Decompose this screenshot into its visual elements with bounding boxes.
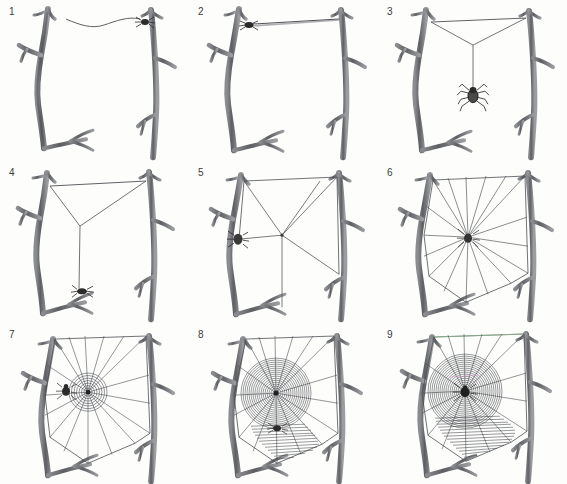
panel-6-drawing [378, 161, 567, 322]
panel-1-drawing [0, 0, 189, 161]
first-radii [239, 177, 339, 307]
panel-5-number: 5 [198, 168, 204, 178]
panel-4-number: 4 [9, 168, 15, 178]
panel-1-number: 1 [9, 7, 15, 17]
left-branch [397, 10, 471, 151]
panel-5: 5 [189, 161, 378, 322]
bridge-thread [50, 181, 146, 186]
right-branch [324, 336, 361, 481]
illustration-sheet: 1 [0, 0, 567, 484]
anchored-dropline [79, 226, 80, 289]
panel-grid: 1 [0, 0, 567, 484]
panel-4-drawing [0, 161, 189, 322]
spider-on-spiral [267, 423, 288, 434]
panel-7-drawing [0, 323, 189, 484]
left-branch [19, 9, 93, 150]
panel-8: 8 [189, 323, 378, 484]
top-frame-highlight [434, 334, 524, 337]
hanging-spider [457, 84, 489, 111]
panel-2: 2 [189, 0, 378, 161]
panel-9-drawing [378, 323, 567, 484]
panel-6: 6 [378, 161, 567, 322]
right-branch [138, 10, 175, 157]
frame-threads [424, 176, 528, 302]
panel-5-drawing [189, 161, 378, 322]
taut-bridge-thread [251, 19, 339, 26]
spider-on-right-branch [135, 17, 155, 28]
y-fork-threads [431, 18, 526, 45]
frame-threads [45, 336, 150, 463]
y-fork-threads [50, 181, 146, 226]
panel-8-number: 8 [198, 330, 204, 340]
right-branch [136, 336, 173, 481]
panel-9: 9 [378, 323, 567, 484]
hub-dark [274, 390, 279, 395]
right-branch [328, 10, 365, 157]
panel-6-number: 6 [387, 168, 393, 178]
right-branch [326, 173, 363, 319]
frame-threads [422, 334, 527, 461]
hub-dark [86, 389, 91, 394]
panel-8-drawing [189, 323, 378, 484]
bridge-thread [431, 18, 526, 22]
panel-2-drawing [189, 0, 378, 161]
panel-1: 1 [0, 0, 189, 161]
left-branch [209, 9, 283, 151]
panel-7: 7 [0, 323, 189, 484]
panel-4: 4 [0, 161, 189, 322]
right-branch [516, 11, 553, 157]
left-branch [400, 175, 474, 314]
panel-3-number: 3 [387, 7, 393, 17]
panel-3-drawing [378, 0, 567, 161]
floating-bridge-thread [66, 18, 140, 27]
panel-9-number: 9 [387, 330, 393, 340]
panel-3: 3 [378, 0, 567, 161]
left-branch [211, 175, 285, 314]
right-branch [513, 334, 550, 481]
panel-7-number: 7 [9, 330, 15, 340]
hub [280, 234, 283, 237]
right-branch [136, 172, 173, 319]
right-branch [515, 173, 552, 319]
panel-2-number: 2 [198, 7, 204, 17]
